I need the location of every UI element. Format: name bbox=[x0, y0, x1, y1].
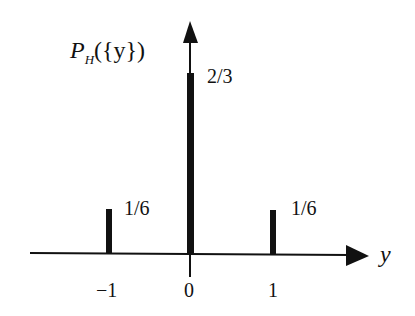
y-label-p: P bbox=[70, 37, 85, 63]
bar-minus-1 bbox=[106, 209, 112, 254]
y-label-sub: H bbox=[85, 52, 94, 67]
tick-label-0: 0 bbox=[184, 280, 194, 300]
tick-label-minus-1: −1 bbox=[96, 280, 117, 300]
y-axis-arrow-icon bbox=[183, 21, 198, 43]
pmf-plot bbox=[0, 0, 415, 316]
tick-label-1: 1 bbox=[268, 280, 278, 300]
x-axis-label: y bbox=[380, 244, 391, 264]
x-axis-arrow-icon bbox=[346, 245, 369, 266]
bar-label-1: 1/6 bbox=[291, 198, 317, 218]
bar-1 bbox=[270, 210, 276, 255]
bar-label-minus-1: 1/6 bbox=[124, 198, 150, 218]
y-label-arg: ({y}) bbox=[94, 37, 145, 63]
bar-label-0: 2/3 bbox=[207, 66, 233, 86]
y-axis-label: PH({y}) bbox=[70, 38, 145, 66]
bar-0 bbox=[187, 73, 194, 255]
